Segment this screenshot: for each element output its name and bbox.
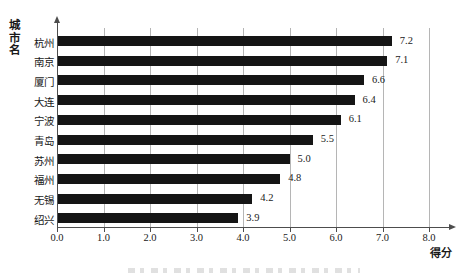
category-label: 南京 xyxy=(22,54,54,69)
bar xyxy=(58,75,364,85)
category-label: 宁波 xyxy=(22,113,54,128)
x-tick-label: 6.0 xyxy=(321,232,351,243)
bar xyxy=(58,174,280,184)
bar-value-label: 6.4 xyxy=(363,94,376,105)
bar xyxy=(58,213,238,223)
x-tick-label: 1.0 xyxy=(89,232,119,243)
bar xyxy=(58,154,290,164)
bar xyxy=(58,56,387,66)
plot-area: 0.01.02.03.04.05.06.07.08.07.2杭州7.1南京6.6… xyxy=(0,0,461,273)
category-label: 无锡 xyxy=(22,192,54,207)
bar xyxy=(58,194,252,204)
bar-value-label: 5.0 xyxy=(298,153,311,164)
bar-value-label: 3.9 xyxy=(246,212,259,223)
x-tick-label: 8.0 xyxy=(414,232,444,243)
category-label: 绍兴 xyxy=(22,212,54,227)
bar-value-label: 7.2 xyxy=(400,35,413,46)
x-tick-label: 4.0 xyxy=(228,232,258,243)
category-label: 杭州 xyxy=(22,35,54,50)
bar-value-label: 5.5 xyxy=(321,133,334,144)
bar-value-label: 6.1 xyxy=(349,113,362,124)
category-label: 苏州 xyxy=(22,153,54,168)
x-tick-label: 7.0 xyxy=(368,232,398,243)
category-label: 福州 xyxy=(22,172,54,187)
category-label: 青岛 xyxy=(22,133,54,148)
x-tick-label: 2.0 xyxy=(135,232,165,243)
bar-value-label: 4.2 xyxy=(260,192,273,203)
bar-value-label: 7.1 xyxy=(395,54,408,65)
bar-value-label: 4.8 xyxy=(288,172,301,183)
x-tick-label: 3.0 xyxy=(182,232,212,243)
category-label: 厦门 xyxy=(22,74,54,89)
bar xyxy=(58,95,355,105)
x-tick-label: 0.0 xyxy=(42,232,72,243)
bar-value-label: 6.6 xyxy=(372,74,385,85)
gridline xyxy=(429,28,430,228)
x-axis-title: 得分 xyxy=(430,244,452,260)
x-tick-label: 5.0 xyxy=(275,232,305,243)
category-label: 大连 xyxy=(22,94,54,109)
bar xyxy=(58,115,341,125)
bar xyxy=(58,36,392,46)
bar xyxy=(58,135,313,145)
x-axis-line xyxy=(57,227,450,228)
cropped-caption-sliver xyxy=(128,268,360,273)
y-axis-up-arrow-icon xyxy=(54,16,60,23)
bar-chart: 城市名 0.01.02.03.04.05.06.07.08.07.2杭州7.1南… xyxy=(0,0,461,273)
x-axis-right-arrow-icon xyxy=(449,224,456,230)
